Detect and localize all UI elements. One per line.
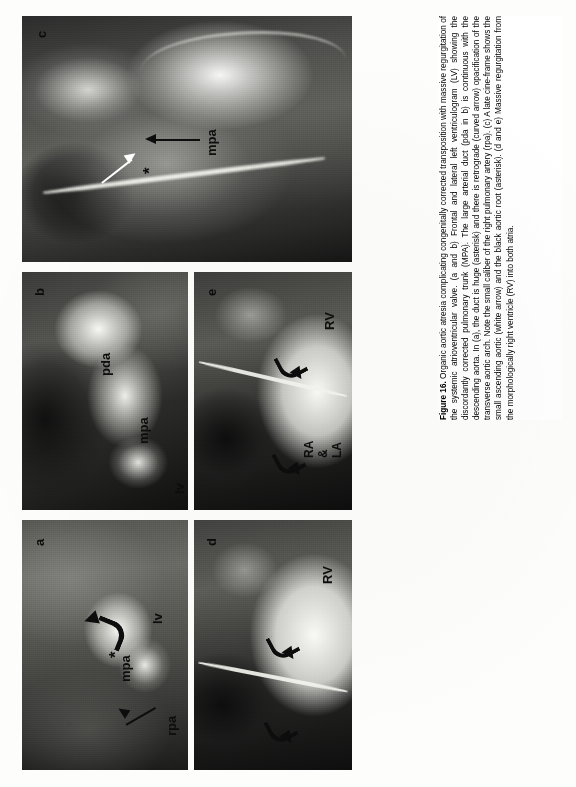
- panel-a: a mpa rpa lv *: [22, 520, 188, 770]
- panel-c-mpa-pointer-arrow: [154, 139, 200, 141]
- panel-a-mpa-label: mpa: [118, 655, 133, 682]
- figure-caption-label: Figure 16.: [439, 381, 448, 420]
- panel-b-mpa-label: mpa: [136, 417, 151, 444]
- panel-e-ra-label: RA: [302, 441, 316, 458]
- panel-c: c mpa *: [22, 16, 352, 262]
- panel-e-grain: [194, 272, 352, 510]
- panel-c-asterisk-marker: *: [140, 167, 160, 174]
- panel-e-rv-label: RV: [322, 312, 337, 330]
- panel-a-lv-label: lv: [150, 613, 165, 624]
- panel-c-mpa-arrowhead: [145, 134, 156, 144]
- figure-caption-text: Figure 16. Organic aortic atresia compli…: [438, 16, 562, 420]
- figure-caption-body: (a and b) Frontal and lateral left ventr…: [450, 16, 514, 420]
- panel-e-la-label: LA: [330, 442, 344, 458]
- figure-caption: Figure 16. Organic aortic atresia compli…: [438, 16, 562, 420]
- panel-c-mpa-label: mpa: [204, 129, 219, 156]
- panel-d-rv-label: RV: [320, 566, 335, 584]
- panel-b-letter: b: [32, 288, 47, 296]
- panel-d: d RV: [194, 520, 352, 770]
- panel-a-asterisk-marker: *: [106, 651, 126, 658]
- panel-b: b pda mpa lv: [22, 272, 188, 510]
- panel-b-lv-label: lv: [172, 483, 187, 494]
- figure-plate: c mpa * b pda mpa lv: [18, 16, 432, 772]
- panel-d-letter: d: [204, 538, 219, 546]
- journal-page: c mpa * b pda mpa lv: [0, 0, 576, 787]
- panel-a-rpa-label: rpa: [164, 716, 179, 736]
- panel-e: e RV RA & LA: [194, 272, 352, 510]
- panel-a-letter: a: [32, 539, 47, 546]
- panel-b-grain: [22, 272, 188, 510]
- panel-e-letter: e: [204, 289, 219, 296]
- panel-b-pda-label: pda: [98, 353, 113, 376]
- panel-c-letter: c: [34, 31, 49, 38]
- panel-e-amp-label: &: [316, 449, 330, 458]
